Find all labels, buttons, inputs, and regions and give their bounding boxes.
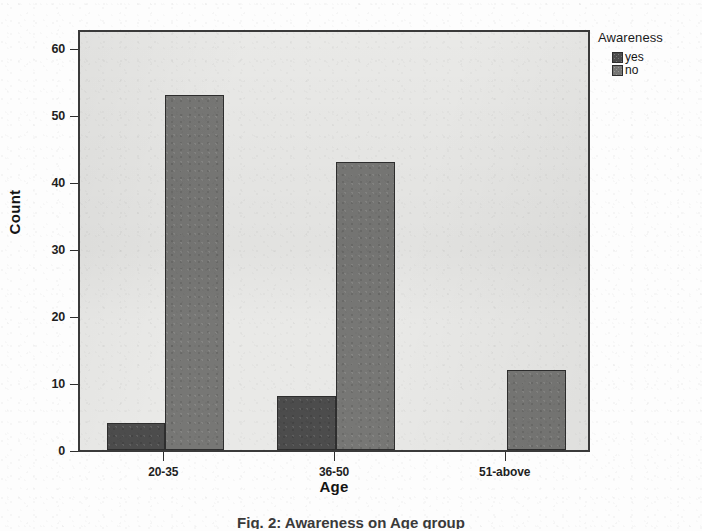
x-tick-mark: [334, 452, 335, 461]
x-tick-label-20-35: 20-35: [148, 465, 178, 479]
plot-area: [78, 30, 590, 452]
bars-layer: [80, 32, 588, 450]
x-tick-label-36-50: 36-50: [319, 465, 349, 479]
x-tick-label-51-above: 51-above: [479, 465, 530, 479]
figure-container: Count 0102030405060 20-3536-5051-above A…: [0, 0, 702, 531]
y-tick-label: 10: [0, 377, 65, 391]
y-tick-mark: [70, 317, 78, 318]
legend-item-no[interactable]: no: [612, 64, 698, 76]
y-tick-label: 30: [0, 243, 65, 257]
legend-label-no: no: [625, 64, 638, 76]
y-tick-label: 20: [0, 310, 65, 324]
x-axis-title: Age: [319, 478, 348, 495]
x-tick-mark: [505, 452, 506, 461]
y-tick-label: 60: [0, 42, 65, 56]
legend-title: Awareness: [598, 30, 698, 45]
bar-36-50-yes: [277, 396, 336, 450]
y-tick-mark: [70, 250, 78, 251]
y-tick-mark: [70, 183, 78, 184]
x-tick-mark: [163, 452, 164, 461]
bar-20-35-yes: [107, 423, 166, 450]
y-tick-label: 50: [0, 109, 65, 123]
y-tick-label: 40: [0, 176, 65, 190]
bar-36-50-no: [336, 162, 395, 450]
bar-51-above-no: [507, 370, 566, 450]
figure-caption: Fig. 2: Awareness on Age group: [237, 514, 465, 531]
y-tick-mark: [70, 49, 78, 50]
y-axis-title: Count: [6, 190, 23, 235]
legend-swatch-no-icon: [612, 65, 623, 76]
y-tick-mark: [70, 451, 78, 452]
legend-swatch-yes-icon: [612, 52, 623, 63]
legend-item-yes[interactable]: yes: [612, 51, 698, 63]
legend: Awareness yesno: [598, 30, 698, 77]
y-tick-mark: [70, 116, 78, 117]
legend-label-yes: yes: [625, 51, 644, 63]
legend-items: yesno: [598, 51, 698, 76]
y-tick-label: 0: [0, 444, 65, 458]
y-tick-mark: [70, 384, 78, 385]
bar-20-35-no: [165, 95, 224, 450]
